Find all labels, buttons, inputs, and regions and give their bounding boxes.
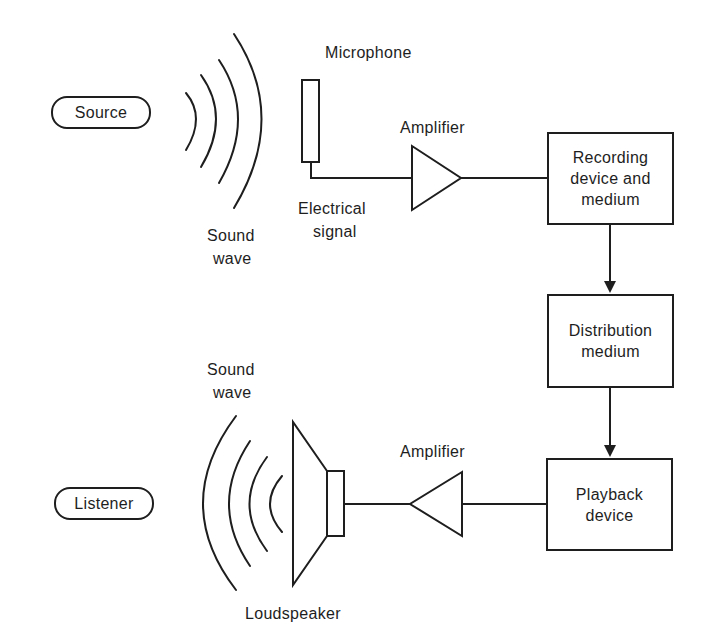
playback-device-node: Playback device	[546, 458, 673, 551]
recording-device-label: Recording device and medium	[570, 147, 650, 210]
amplifier-forward-icon	[412, 146, 461, 210]
arrowhead-icon	[604, 445, 616, 457]
diagram-canvas: Source Listener Recording device and med…	[0, 0, 704, 644]
sound-wave-out-icon	[186, 34, 262, 208]
loudspeaker-icon	[293, 422, 344, 585]
amplifier-reverse-icon	[410, 472, 462, 536]
sound-wave-top-label-2: wave	[213, 248, 252, 269]
listener-label: Listener	[74, 495, 133, 513]
arrowhead-icon	[604, 281, 616, 293]
source-node: Source	[51, 96, 151, 129]
microphone-icon	[302, 80, 319, 162]
electrical-signal-label-1: Electrical	[298, 198, 366, 219]
sound-wave-top-label-1: Sound	[207, 225, 255, 246]
electrical-signal-line	[311, 162, 412, 178]
electrical-signal-label-2: signal	[313, 221, 357, 242]
playback-device-label: Playback device	[576, 484, 643, 526]
loudspeaker-label: Loudspeaker	[245, 603, 341, 624]
sound-wave-in-icon	[203, 416, 282, 590]
source-label: Source	[75, 104, 128, 122]
distribution-medium-label: Distribution medium	[569, 320, 653, 362]
recording-device-node: Recording device and medium	[547, 132, 674, 225]
listener-node: Listener	[54, 487, 154, 520]
amplifier-top-label: Amplifier	[400, 117, 465, 138]
sound-wave-bottom-label-1: Sound	[207, 359, 255, 380]
microphone-label: Microphone	[325, 42, 412, 63]
amplifier-bottom-label: Amplifier	[400, 441, 465, 462]
distribution-medium-node: Distribution medium	[547, 294, 674, 388]
sound-wave-bottom-label-2: wave	[213, 382, 252, 403]
